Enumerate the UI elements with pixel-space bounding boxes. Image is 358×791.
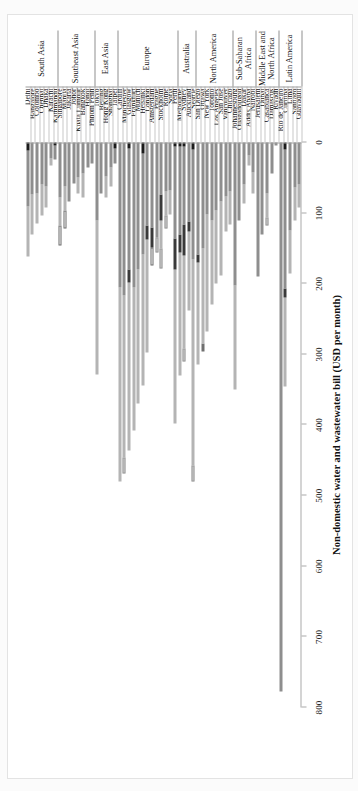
stacked-bar[interactable] [191, 142, 194, 481]
bar-row[interactable] [48, 142, 53, 707]
stacked-bar[interactable] [44, 142, 47, 207]
stacked-bar[interactable] [72, 142, 75, 183]
bar-row[interactable] [237, 142, 242, 707]
stacked-bar[interactable] [283, 142, 286, 386]
bar-row[interactable] [200, 142, 205, 707]
bar-row[interactable] [94, 142, 99, 707]
stacked-bar[interactable] [122, 142, 125, 473]
bar-row[interactable] [99, 142, 104, 707]
stacked-bar[interactable] [58, 142, 61, 245]
bar-row[interactable] [214, 142, 219, 707]
bar-row[interactable] [227, 142, 232, 707]
stacked-bar[interactable] [30, 142, 33, 234]
bar-row[interactable] [223, 142, 228, 707]
stacked-bar[interactable] [187, 142, 190, 310]
stacked-bar[interactable] [219, 142, 222, 275]
bar-row[interactable] [232, 142, 237, 707]
bar-row[interactable] [43, 142, 48, 707]
bar-row[interactable] [218, 142, 223, 707]
stacked-bar[interactable] [113, 142, 116, 163]
stacked-bar[interactable] [256, 142, 259, 276]
stacked-bar[interactable] [260, 142, 263, 234]
stacked-bar[interactable] [196, 142, 199, 364]
stacked-bar[interactable] [53, 142, 56, 159]
stacked-bar[interactable] [173, 142, 176, 423]
stacked-bar[interactable] [145, 142, 148, 352]
bar-row[interactable] [66, 142, 71, 707]
bar-row[interactable] [126, 142, 131, 707]
stacked-bar[interactable] [150, 142, 153, 265]
bar-row[interactable] [283, 142, 288, 707]
stacked-bar[interactable] [99, 142, 102, 193]
bar-row[interactable] [172, 142, 177, 707]
stacked-bar[interactable] [63, 142, 66, 228]
stacked-bar[interactable] [81, 142, 84, 197]
stacked-bar[interactable] [251, 142, 254, 193]
bar-row[interactable] [177, 142, 182, 707]
bar-row[interactable] [191, 142, 196, 707]
stacked-bar[interactable] [95, 142, 98, 374]
stacked-bar[interactable] [164, 142, 167, 228]
stacked-bar[interactable] [178, 142, 181, 375]
bar-row[interactable] [209, 142, 214, 707]
stacked-bar[interactable] [40, 142, 43, 215]
stacked-bar[interactable] [293, 142, 296, 220]
stacked-bar[interactable] [270, 142, 273, 173]
stacked-bar[interactable] [141, 142, 144, 385]
stacked-bar[interactable] [201, 142, 204, 351]
stacked-bar[interactable] [247, 142, 250, 165]
stacked-bar[interactable] [242, 142, 245, 203]
bar-row[interactable] [269, 142, 274, 707]
bar-row[interactable] [85, 142, 90, 707]
stacked-bar[interactable] [35, 142, 38, 223]
bar-row[interactable] [195, 142, 200, 707]
bar-row[interactable] [108, 142, 113, 707]
bar-row[interactable] [103, 142, 108, 707]
bar-row[interactable] [204, 142, 209, 707]
bar-row[interactable] [287, 142, 292, 707]
stacked-bar[interactable] [159, 142, 162, 268]
stacked-bar[interactable] [233, 142, 236, 389]
bar-row[interactable] [273, 142, 278, 707]
stacked-bar[interactable] [182, 142, 185, 361]
bar-row[interactable] [57, 142, 62, 707]
stacked-bar[interactable] [26, 142, 29, 256]
bar-row[interactable] [181, 142, 186, 707]
bar-row[interactable] [122, 142, 127, 707]
stacked-bar[interactable] [205, 142, 208, 331]
bar-row[interactable] [25, 142, 30, 707]
bar-row[interactable] [53, 142, 58, 707]
bar-row[interactable] [163, 142, 168, 707]
stacked-bar[interactable] [86, 142, 89, 167]
stacked-bar[interactable] [136, 142, 139, 403]
bar-row[interactable] [292, 142, 297, 707]
stacked-bar[interactable] [118, 142, 121, 481]
bar-row[interactable] [131, 142, 136, 707]
stacked-bar[interactable] [132, 142, 135, 430]
bar-row[interactable] [186, 142, 191, 707]
stacked-bar[interactable] [76, 142, 79, 193]
stacked-bar[interactable] [90, 142, 93, 163]
bar-row[interactable] [250, 142, 255, 707]
stacked-bar[interactable] [279, 142, 282, 691]
bar-row[interactable] [76, 142, 81, 707]
stacked-bar[interactable] [49, 142, 52, 165]
bar-row[interactable] [135, 142, 140, 707]
bar-row[interactable] [89, 142, 94, 707]
stacked-bar[interactable] [214, 142, 217, 283]
stacked-bar[interactable] [224, 142, 227, 231]
stacked-bar[interactable] [288, 142, 291, 273]
stacked-bar[interactable] [237, 142, 240, 220]
stacked-bar[interactable] [228, 142, 231, 224]
bar-row[interactable] [149, 142, 154, 707]
stacked-bar[interactable] [210, 142, 213, 304]
bar-row[interactable] [140, 142, 145, 707]
stacked-bar[interactable] [265, 142, 268, 225]
bar-row[interactable] [264, 142, 269, 707]
bar-row[interactable] [154, 142, 159, 707]
bar-row[interactable] [278, 142, 283, 707]
bar-row[interactable] [168, 142, 173, 707]
bar-row[interactable] [117, 142, 122, 707]
bar-row[interactable] [62, 142, 67, 707]
bar-row[interactable] [39, 142, 44, 707]
